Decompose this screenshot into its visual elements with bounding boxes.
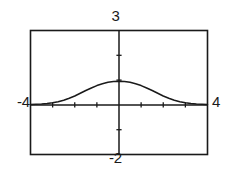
plot-area [0,0,231,173]
graph-screen: 3 -4 4 -2 [0,0,231,173]
axes-group [31,31,208,155]
